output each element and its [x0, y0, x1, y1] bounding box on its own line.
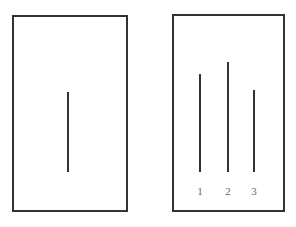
standard-stimulus-panel [12, 15, 128, 212]
comparison-line-2 [227, 62, 229, 172]
line-label-2: 2 [218, 186, 238, 197]
line-label-1: 1 [190, 186, 210, 197]
comparison-line-1 [199, 74, 201, 172]
standard-line [67, 92, 69, 172]
stimulus-figure: 1 2 3 [0, 0, 296, 227]
comparison-line-3 [253, 90, 255, 172]
line-label-3: 3 [244, 186, 264, 197]
